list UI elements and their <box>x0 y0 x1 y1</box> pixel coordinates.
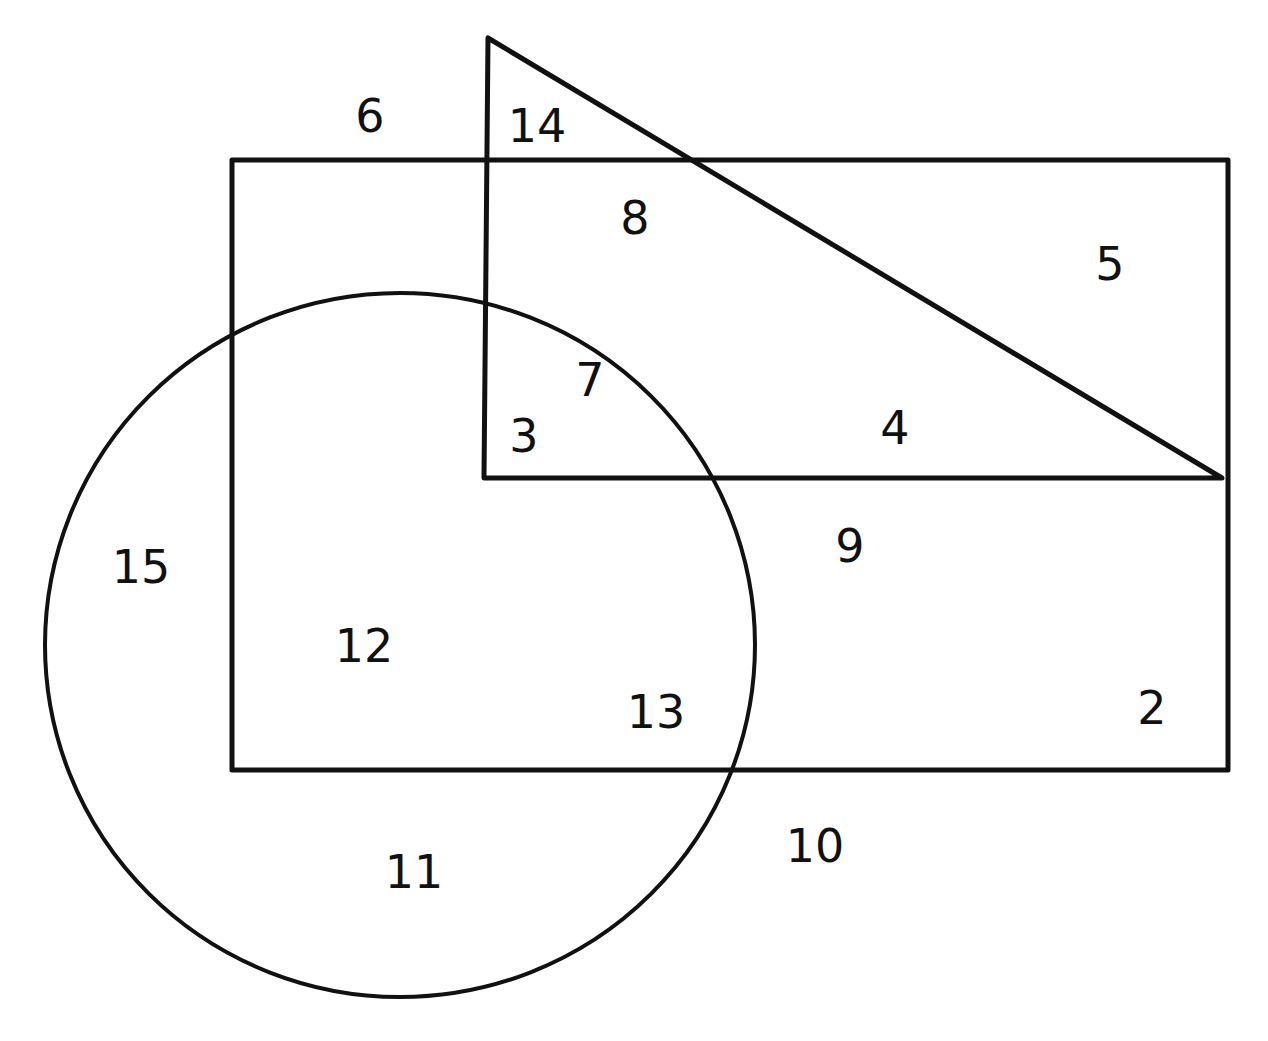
region-label-8: 8 <box>620 191 649 245</box>
region-label-10: 10 <box>786 819 845 873</box>
region-label-5: 5 <box>1095 237 1124 291</box>
region-label-15: 15 <box>112 540 171 594</box>
region-label-12: 12 <box>335 619 394 673</box>
region-label-3: 3 <box>509 409 538 463</box>
rectangle-set <box>232 160 1228 770</box>
region-label-11: 11 <box>385 845 444 899</box>
region-label-6: 6 <box>355 89 384 143</box>
region-label-4: 4 <box>880 401 909 455</box>
region-labels: 23456789101112131415 <box>112 89 1167 899</box>
region-label-7: 7 <box>575 353 604 407</box>
region-label-9: 9 <box>835 519 864 573</box>
venn-diagram: 23456789101112131415 <box>0 0 1268 1041</box>
region-label-2: 2 <box>1137 681 1166 735</box>
region-label-14: 14 <box>508 99 567 153</box>
region-label-13: 13 <box>627 685 686 739</box>
